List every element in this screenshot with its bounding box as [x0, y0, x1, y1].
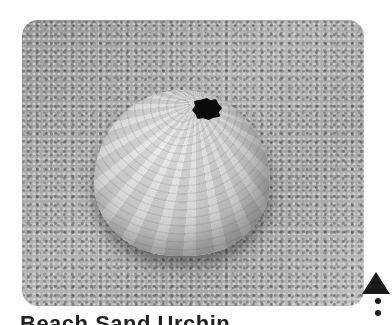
urchin-ridges	[94, 90, 270, 256]
vertical-dots-icon	[375, 298, 381, 304]
sea-urchin-shell	[94, 90, 270, 256]
more-options-button[interactable]	[372, 298, 384, 325]
vertical-dots-icon	[375, 310, 381, 316]
page: Beach Sand Urchin	[0, 0, 392, 325]
scroll-to-top-button[interactable]	[360, 272, 392, 294]
item-title: Beach Sand Urchin	[20, 311, 230, 325]
photo-card[interactable]	[22, 20, 364, 306]
triangle-up-icon	[362, 272, 390, 294]
